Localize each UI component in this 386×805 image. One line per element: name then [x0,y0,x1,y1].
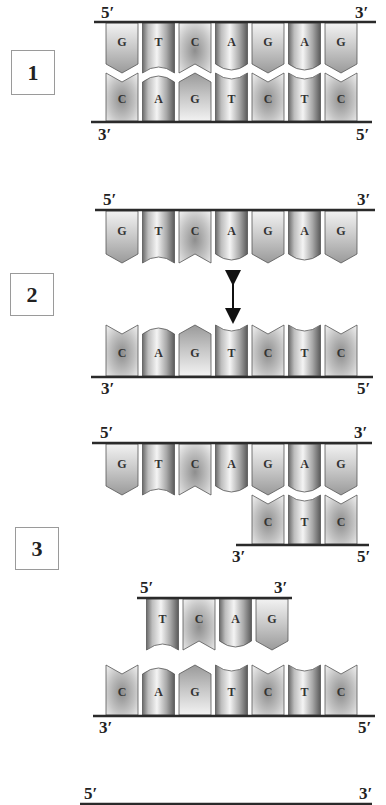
nucleotide-t: T [143,211,175,263]
nucleotide-g: G [179,665,211,715]
base-letter: G [190,92,199,106]
nucleotide-a: A [216,23,248,70]
nucleotide-a: A [216,211,248,260]
three-prime-label: 3′ [357,191,370,208]
base-letter: C [264,92,273,106]
nucleotide-c: C [183,599,215,650]
three-prime-label: 3′ [98,126,111,143]
nucleotide-a: A [220,599,252,647]
nucleotide-g: G [179,73,211,121]
nucleotide-a: A [289,444,321,492]
nucleotide-g: G [106,211,138,263]
base-letter: G [336,35,345,49]
nucleotide-a: A [143,76,175,121]
base-letter: C [337,346,346,360]
base-letter: T [227,346,235,360]
three-prime-label: 3′ [232,548,245,565]
base-letter: C [118,92,127,106]
base-letter: C [264,685,273,699]
nucleotide-c: C [252,325,284,376]
step-number-label: 2 [27,282,38,308]
base-letter: T [300,685,308,699]
base-letter: C [264,346,273,360]
nucleotide-a: A [289,211,321,260]
five-prime-label: 5′ [100,424,113,441]
nucleotide-t: T [289,495,321,544]
base-letter: G [336,457,345,471]
nucleotide-a: A [289,23,321,70]
base-letter: T [154,224,162,238]
base-letter: T [300,515,308,529]
nucleotide-a: A [143,668,175,715]
base-letter: C [191,224,200,238]
nucleotide-c: C [325,325,357,376]
nucleotide-t: T [289,325,321,376]
three-prime-label: 3′ [101,380,114,397]
base-letter: T [300,92,308,106]
base-letter: A [154,685,163,699]
nucleotide-t: T [289,665,321,715]
base-letter: C [195,612,204,626]
dna-replication-diagram: GTCAGAGCAGTCTCGTCAGAGCAGTCTCGTCAGAGCTCTC… [0,0,386,805]
base-letter: T [154,35,162,49]
nucleotide-g: G [106,444,138,495]
three-prime-label: 3′ [354,424,367,441]
step-number-label: 1 [28,60,39,86]
nucleotide-g: G [325,23,357,73]
base-letter: G [267,612,276,626]
base-letter: C [264,515,273,529]
nucleotide-g: G [252,444,284,495]
base-letter: A [231,612,240,626]
three-prime-label: 3′ [274,579,287,596]
nucleotide-t: T [143,23,175,73]
five-prime-label: 5′ [357,380,370,397]
base-letter: C [191,457,200,471]
base-letter: T [158,612,166,626]
nucleotide-t: T [147,599,179,650]
five-prime-label: 5′ [140,579,153,596]
base-letter: A [154,92,163,106]
base-letter: A [227,457,236,471]
nucleotide-g: G [256,599,288,650]
base-letter: C [337,92,346,106]
nucleotide-a: A [143,328,175,376]
step-number-box: 3 [15,527,59,570]
nucleotide-c: C [252,665,284,715]
nucleotide-c: C [252,495,284,544]
base-letter: C [118,685,127,699]
five-prime-label: 5′ [358,719,371,736]
nucleotide-c: C [325,73,357,121]
nucleotide-t: T [216,73,248,121]
nucleotide-t: T [216,325,248,376]
base-letter: T [300,346,308,360]
base-letter: G [190,346,199,360]
nucleotide-c: C [106,73,138,121]
step-number-box: 1 [11,50,55,95]
nucleotide-a: A [216,444,248,492]
nucleotide-g: G [325,211,357,263]
base-letter: T [227,92,235,106]
base-letter: A [300,224,309,238]
base-letter: C [337,685,346,699]
five-prime-label: 5′ [356,126,369,143]
step-number-box: 2 [10,273,54,316]
nucleotide-c: C [179,23,211,73]
nucleotide-c: C [325,665,357,715]
nucleotide-g: G [325,444,357,495]
nucleotide-c: C [106,665,138,715]
base-letter: G [117,224,126,238]
base-letter: A [300,457,309,471]
nucleotide-g: G [179,325,211,376]
base-letter: G [263,35,272,49]
base-letter: G [263,457,272,471]
base-letter: G [263,224,272,238]
base-letter: C [118,346,127,360]
three-prime-label: 3′ [355,4,368,21]
base-letter: G [117,457,126,471]
nucleotide-c: C [325,495,357,544]
base-letter: G [117,35,126,49]
nucleotide-c: C [252,73,284,121]
five-prime-label: 5′ [84,785,97,802]
three-prime-label: 3′ [99,719,112,736]
base-letter: A [154,346,163,360]
